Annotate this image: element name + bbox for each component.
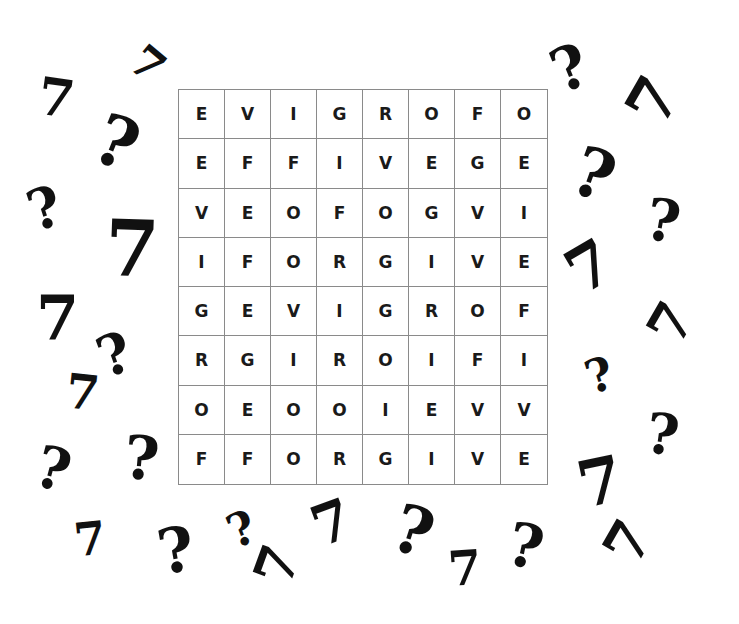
grid-cell-r7-c1[interactable]: F (225, 435, 271, 484)
grid-cell-r7-c7[interactable]: E (501, 435, 547, 484)
grid-cell-r6-c4[interactable]: I (363, 386, 409, 435)
word-search-grid: EVIGROFOEFFIVEGEVEOFOGVIIFORGIVEGEVIGROF… (178, 89, 548, 485)
grid-cell-r2-c0[interactable]: V (179, 189, 225, 238)
seven-decoration: 7 (638, 293, 704, 353)
grid-cell-r0-c2[interactable]: I (271, 90, 317, 139)
grid-cell-r3-c4[interactable]: G (363, 238, 409, 287)
grid-cell-r0-c0[interactable]: E (179, 90, 225, 139)
question-mark-decoration: ? (121, 427, 161, 490)
seven-decoration: 7 (104, 209, 161, 289)
seven-decoration: 7 (616, 67, 691, 135)
grid-cell-r1-c7[interactable]: E (501, 139, 547, 188)
grid-cell-r5-c2[interactable]: I (271, 336, 317, 385)
grid-cell-r7-c5[interactable]: I (409, 435, 455, 484)
grid-cell-r6-c3[interactable]: O (317, 386, 363, 435)
grid-cell-r1-c6[interactable]: G (455, 139, 501, 188)
grid-cell-r4-c2[interactable]: V (271, 287, 317, 336)
grid-cell-r6-c0[interactable]: O (179, 386, 225, 435)
grid-cell-r6-c5[interactable]: E (409, 386, 455, 435)
grid-cell-r2-c5[interactable]: G (409, 189, 455, 238)
grid-cell-r2-c1[interactable]: E (225, 189, 271, 238)
grid-cell-r4-c0[interactable]: G (179, 287, 225, 336)
grid-cell-r1-c0[interactable]: E (179, 139, 225, 188)
grid-cell-r3-c7[interactable]: E (501, 238, 547, 287)
seven-decoration: 7 (245, 538, 309, 592)
grid-cell-r3-c2[interactable]: O (271, 238, 317, 287)
question-mark-decoration: ? (641, 189, 685, 252)
question-mark-decoration: ? (385, 494, 442, 569)
question-mark-decoration: ? (84, 103, 148, 183)
grid-cell-r6-c6[interactable]: V (455, 386, 501, 435)
grid-cell-r6-c1[interactable]: E (225, 386, 271, 435)
grid-cell-r3-c0[interactable]: I (179, 238, 225, 287)
grid-cell-r5-c1[interactable]: G (225, 336, 271, 385)
grid-cell-r5-c4[interactable]: O (363, 336, 409, 385)
grid-cell-r1-c2[interactable]: F (271, 139, 317, 188)
grid-cell-r4-c6[interactable]: O (455, 287, 501, 336)
grid-cell-r2-c2[interactable]: O (271, 189, 317, 238)
grid-cell-r4-c4[interactable]: G (363, 287, 409, 336)
grid-cell-r0-c7[interactable]: O (501, 90, 547, 139)
grid-cell-r1-c3[interactable]: I (317, 139, 363, 188)
grid-cell-r1-c4[interactable]: V (363, 139, 409, 188)
seven-decoration: 7 (555, 229, 623, 304)
grid-cell-r4-c5[interactable]: R (409, 287, 455, 336)
grid-cell-r7-c2[interactable]: O (271, 435, 317, 484)
question-mark-decoration: ? (153, 517, 200, 584)
seven-decoration: 7 (572, 446, 629, 518)
grid-cell-r6-c2[interactable]: O (271, 386, 317, 435)
grid-cell-r5-c5[interactable]: I (409, 336, 455, 385)
grid-cell-r2-c6[interactable]: V (455, 189, 501, 238)
grid-cell-r3-c5[interactable]: I (409, 238, 455, 287)
seven-decoration: 7 (121, 37, 173, 90)
grid-cell-r0-c5[interactable]: O (409, 90, 455, 139)
seven-decoration: 7 (304, 489, 360, 555)
grid-cell-r3-c1[interactable]: F (225, 238, 271, 287)
question-mark-decoration: ? (564, 135, 625, 213)
grid-cell-r7-c6[interactable]: V (455, 435, 501, 484)
grid-cell-r2-c4[interactable]: O (363, 189, 409, 238)
grid-cell-r6-c7[interactable]: V (501, 386, 547, 435)
grid-cell-r2-c7[interactable]: I (501, 189, 547, 238)
grid-cell-r7-c4[interactable]: G (363, 435, 409, 484)
question-mark-decoration: ? (642, 404, 682, 464)
seven-decoration: 7 (64, 366, 102, 417)
grid-cell-r0-c6[interactable]: F (455, 90, 501, 139)
seven-decoration: 7 (72, 514, 109, 563)
grid-cell-r5-c6[interactable]: F (455, 336, 501, 385)
question-mark-decoration: ? (542, 34, 597, 103)
question-mark-decoration: ? (580, 349, 620, 401)
grid-cell-r2-c3[interactable]: F (317, 189, 363, 238)
grid-cell-r3-c6[interactable]: V (455, 238, 501, 287)
grid-cell-r3-c3[interactable]: R (317, 238, 363, 287)
seven-decoration: 7 (446, 543, 483, 593)
grid-cell-r0-c1[interactable]: V (225, 90, 271, 139)
grid-cell-r1-c5[interactable]: E (409, 139, 455, 188)
grid-cell-r0-c4[interactable]: R (363, 90, 409, 139)
grid-cell-r4-c7[interactable]: F (501, 287, 547, 336)
seven-decoration: 7 (593, 511, 661, 573)
question-mark-decoration: ? (29, 437, 77, 502)
grid-cell-r5-c7[interactable]: I (501, 336, 547, 385)
grid-cell-r4-c1[interactable]: E (225, 287, 271, 336)
grid-cell-r7-c3[interactable]: R (317, 435, 363, 484)
grid-cell-r1-c1[interactable]: F (225, 139, 271, 188)
grid-cell-r0-c3[interactable]: G (317, 90, 363, 139)
question-mark-decoration: ? (20, 176, 69, 239)
seven-decoration: 7 (36, 288, 79, 350)
grid-cell-r7-c0[interactable]: F (179, 435, 225, 484)
grid-cell-r5-c3[interactable]: R (317, 336, 363, 385)
question-mark-decoration: ? (502, 513, 549, 579)
grid-cell-r4-c3[interactable]: I (317, 287, 363, 336)
seven-decoration: 7 (35, 70, 78, 127)
grid-cell-r5-c0[interactable]: R (179, 336, 225, 385)
